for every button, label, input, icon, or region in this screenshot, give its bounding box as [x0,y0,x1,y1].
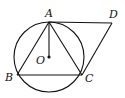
label-a: A [44,7,53,20]
center-dot-o [47,55,50,58]
geometry-diagram: A B C D O [0,0,125,98]
segment-ab [17,22,49,75]
label-o: O [36,54,45,67]
label-d: D [108,8,118,21]
label-b: B [4,71,13,84]
segment-cd [82,23,112,75]
label-c: C [85,72,94,85]
segment-ac [49,22,82,75]
